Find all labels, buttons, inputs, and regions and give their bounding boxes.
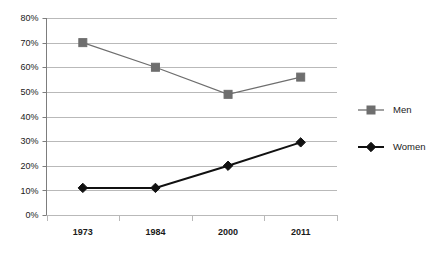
x-axis-tick-label: 2011 bbox=[291, 227, 311, 237]
y-axis-tick-label: 30% bbox=[20, 136, 38, 146]
series-men bbox=[79, 39, 305, 99]
y-axis-tick-label: 0% bbox=[25, 210, 38, 220]
series-line bbox=[83, 142, 301, 188]
legend-marker-swatch bbox=[367, 106, 375, 114]
chart-canvas: 80%70%60%50%40%30%20%10%0% 1973198420002… bbox=[0, 0, 447, 255]
y-axis-tick-label: 60% bbox=[20, 62, 38, 72]
series-women bbox=[78, 138, 305, 193]
series-line bbox=[83, 43, 301, 95]
x-axis-tick-label: 1973 bbox=[73, 227, 93, 237]
legend-item-women[interactable]: Women bbox=[358, 141, 426, 152]
line-chart: 80%70%60%50%40%30%20%10%0% 1973198420002… bbox=[0, 0, 447, 255]
legend-label: Men bbox=[393, 104, 411, 115]
y-axis-tick-label: 70% bbox=[20, 38, 38, 48]
data-series-group bbox=[78, 39, 305, 193]
y-axis-tick-label: 40% bbox=[20, 112, 38, 122]
legend-item-men[interactable]: Men bbox=[358, 104, 411, 115]
data-point-marker bbox=[297, 73, 305, 81]
y-axis-tick-label: 10% bbox=[20, 186, 38, 196]
data-point-marker bbox=[296, 138, 305, 147]
data-point-marker bbox=[151, 183, 160, 192]
chart-legend: MenWomen bbox=[358, 104, 426, 152]
data-point-marker bbox=[224, 90, 232, 98]
x-axis-tick-label: 1984 bbox=[145, 227, 165, 237]
data-point-marker bbox=[151, 63, 159, 71]
y-axis-tick-label: 20% bbox=[20, 161, 38, 171]
legend-marker-swatch bbox=[366, 142, 375, 151]
y-axis-tick-label: 50% bbox=[20, 87, 38, 97]
gridlines-group bbox=[47, 19, 338, 216]
y-tick-marks-group bbox=[43, 19, 47, 216]
y-axis-tick-labels: 80%70%60%50%40%30%20%10%0% bbox=[20, 13, 38, 220]
y-axis-tick-label: 80% bbox=[20, 13, 38, 23]
data-point-marker bbox=[79, 39, 87, 47]
legend-label: Women bbox=[393, 141, 426, 152]
data-point-marker bbox=[223, 161, 232, 170]
x-axis-tick-labels: 1973198420002011 bbox=[73, 227, 311, 237]
x-axis-tick-label: 2000 bbox=[218, 227, 238, 237]
data-point-marker bbox=[78, 183, 87, 192]
